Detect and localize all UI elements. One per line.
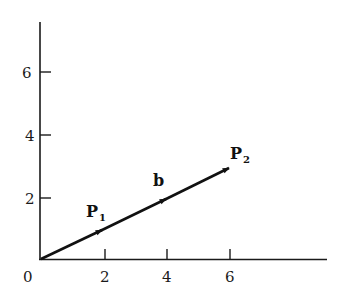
x-tick-label-2: 2 [100,268,110,286]
vector-segment-1 [41,230,102,259]
vector-segment-3 [164,168,229,200]
x-tick-label-4: 4 [162,268,172,286]
vector-segment-2 [100,199,166,231]
origin-label: 0 [23,268,33,286]
vector-diagram: 6 4 2 0 2 4 6 P1 b P2 [0,0,338,298]
p1-label: P1 [86,202,106,223]
b-label: b [153,171,164,190]
x-tick-label-6: 6 [225,268,235,286]
p2-label: P2 [230,144,250,165]
y-tick-label-2: 2 [25,190,35,208]
y-tick-label-4: 4 [25,127,35,145]
y-tick-label-6: 6 [22,64,32,82]
